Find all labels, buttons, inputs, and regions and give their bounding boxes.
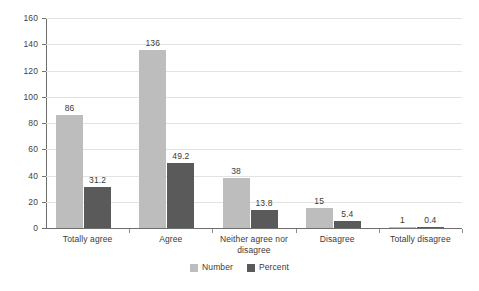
- category-label-line: Totally agree: [40, 234, 135, 245]
- bar-value-label: 49.2: [160, 152, 201, 161]
- bar-group: 155.4: [306, 18, 361, 228]
- bar-group: 8631.2: [56, 18, 111, 228]
- bar-group: 13649.2: [139, 18, 194, 228]
- y-tick-label: 0: [2, 224, 38, 233]
- bar-percent[interactable]: [84, 187, 111, 228]
- plot-area: 8631.213649.23813.8155.410.4: [46, 18, 462, 228]
- bar-value-label: 136: [132, 39, 173, 48]
- category-label: Totally agree: [40, 234, 135, 245]
- x-tick-mark: [129, 229, 130, 233]
- bar-value-label: 5.4: [327, 210, 368, 219]
- category-label: Disagree: [290, 234, 385, 245]
- bar-percent[interactable]: [417, 227, 444, 228]
- bar-value-label: 15: [299, 197, 340, 206]
- bar-number[interactable]: [389, 227, 416, 228]
- bar-value-label: 38: [216, 167, 257, 176]
- bar-chart: 020406080100120140160 8631.213649.23813.…: [0, 0, 479, 291]
- category-label-line: Totally disagree: [373, 234, 468, 245]
- bar-value-label: 31.2: [77, 176, 118, 185]
- bar-number[interactable]: [56, 115, 83, 228]
- legend-item-number[interactable]: Number: [190, 263, 233, 272]
- legend-swatch-number-icon: [190, 264, 198, 272]
- bar-percent[interactable]: [251, 210, 278, 228]
- category-label-line: disagree: [206, 245, 301, 256]
- legend-item-percent[interactable]: Percent: [247, 263, 289, 272]
- y-tick-label: 60: [2, 145, 38, 154]
- category-label: Totally disagree: [373, 234, 468, 245]
- y-tick-mark: [42, 228, 46, 229]
- y-tick-label: 120: [2, 67, 38, 76]
- category-label-line: Agree: [123, 234, 218, 245]
- bar-number[interactable]: [139, 50, 166, 229]
- category-label: Neither agree nordisagree: [206, 234, 301, 256]
- x-tick-mark: [212, 229, 213, 233]
- bar-value-label: 86: [49, 104, 90, 113]
- category-label-line: Neither agree nor: [206, 234, 301, 245]
- chart-legend: Number Percent: [0, 263, 479, 272]
- gridline: [46, 228, 462, 229]
- bar-value-label: 0.4: [410, 216, 451, 225]
- x-tick-mark: [462, 229, 463, 233]
- bar-group: 3813.8: [223, 18, 278, 228]
- y-tick-label: 80: [2, 119, 38, 128]
- bar-percent[interactable]: [334, 221, 361, 228]
- x-tick-mark: [379, 229, 380, 233]
- bar-percent[interactable]: [167, 163, 194, 228]
- bar-value-label: 13.8: [244, 199, 285, 208]
- y-tick-label: 160: [2, 14, 38, 23]
- y-tick-label: 140: [2, 40, 38, 49]
- category-label: Agree: [123, 234, 218, 245]
- legend-label-number: Number: [202, 263, 233, 272]
- legend-swatch-percent-icon: [247, 264, 255, 272]
- bar-group: 10.4: [389, 18, 444, 228]
- x-tick-mark: [296, 229, 297, 233]
- category-label-line: Disagree: [290, 234, 385, 245]
- y-tick-label: 40: [2, 172, 38, 181]
- y-tick-label: 20: [2, 198, 38, 207]
- y-tick-label: 100: [2, 93, 38, 102]
- legend-label-percent: Percent: [259, 263, 289, 272]
